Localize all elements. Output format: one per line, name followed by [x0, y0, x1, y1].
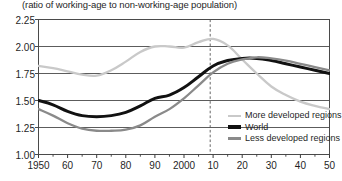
legend-swatch-icon [228, 137, 241, 140]
x-tick-label: 80 [120, 160, 131, 171]
x-tick-label: 2000 [173, 160, 195, 171]
legend-label: Less developed regions [245, 133, 340, 145]
x-tick-label: 70 [91, 160, 102, 171]
x-tick-label: 10 [208, 160, 219, 171]
legend-label: More developed regions [245, 110, 342, 122]
x-tick-label: 60 [62, 160, 73, 171]
x-tick-label: 1950 [27, 160, 49, 171]
x-tick-label: 30 [266, 160, 277, 171]
legend-label: World [245, 122, 268, 134]
x-tick-label: 50 [324, 160, 335, 171]
legend-item-more-developed-regions: More developed regions [228, 110, 342, 122]
x-tick-label: 40 [295, 160, 306, 171]
legend-item-world: World [228, 122, 342, 134]
legend-swatch-icon [228, 125, 241, 129]
legend: More developed regions World Less develo… [228, 110, 342, 145]
x-tick-label: 90 [149, 160, 160, 171]
x-tick-marks [39, 155, 330, 159]
legend-item-less-developed-regions: Less developed regions [228, 133, 342, 145]
x-tick-label: 20 [237, 160, 248, 171]
legend-swatch-icon [228, 115, 241, 118]
